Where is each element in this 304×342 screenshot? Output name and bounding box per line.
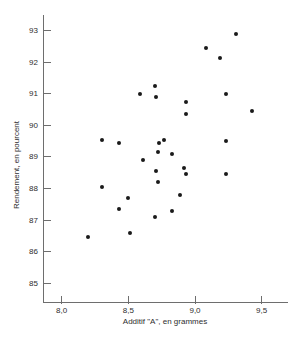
x-tick	[61, 296, 62, 304]
data-point	[224, 92, 228, 96]
x-tick	[195, 296, 196, 304]
x-tick-label: 9,0	[184, 306, 206, 315]
data-point	[170, 209, 174, 213]
y-axis-label: Rendement, en pourcent	[12, 110, 22, 220]
data-point	[153, 215, 157, 219]
y-tick-label: 93	[22, 26, 38, 35]
data-point	[218, 56, 222, 60]
data-point	[128, 231, 132, 235]
data-point	[170, 152, 174, 156]
data-point	[184, 172, 188, 176]
data-point	[117, 207, 121, 211]
y-tick-label: 91	[22, 89, 38, 98]
x-tick-label: 8,0	[51, 306, 73, 315]
x-axis	[43, 302, 288, 303]
x-tick-label: 9,5	[251, 306, 273, 315]
y-axis	[43, 15, 44, 303]
y-tick	[43, 62, 51, 63]
y-tick	[43, 30, 51, 31]
x-tick	[128, 296, 129, 304]
y-tick	[43, 156, 51, 157]
data-point	[184, 100, 188, 104]
data-point	[182, 166, 186, 170]
y-tick-label: 92	[22, 58, 38, 67]
data-point	[117, 141, 121, 145]
y-tick	[43, 188, 51, 189]
data-point	[141, 158, 145, 162]
data-point	[100, 138, 104, 142]
data-point	[86, 235, 90, 239]
data-point	[234, 32, 238, 36]
data-point	[154, 169, 158, 173]
y-tick	[43, 93, 51, 94]
data-point	[162, 138, 166, 142]
data-point	[126, 196, 130, 200]
y-tick-label: 85	[22, 279, 38, 288]
y-tick-label: 90	[22, 121, 38, 130]
data-point	[204, 46, 208, 50]
data-point	[224, 139, 228, 143]
data-point	[156, 150, 160, 154]
data-point	[250, 109, 254, 113]
x-tick-label: 8,5	[117, 306, 139, 315]
y-tick	[43, 125, 51, 126]
y-tick-label: 88	[22, 184, 38, 193]
x-tick	[261, 296, 262, 304]
y-tick	[43, 283, 51, 284]
data-point	[156, 180, 160, 184]
y-tick	[43, 220, 51, 221]
data-point	[154, 95, 158, 99]
x-axis-label: Additif "A", en grammes	[85, 317, 245, 327]
y-tick-label: 89	[22, 152, 38, 161]
y-tick-label: 86	[22, 247, 38, 256]
y-tick	[43, 251, 51, 252]
y-tick-label: 87	[22, 216, 38, 225]
data-point	[100, 185, 104, 189]
data-point	[138, 92, 142, 96]
data-point	[153, 84, 157, 88]
data-point	[157, 141, 161, 145]
data-point	[178, 193, 182, 197]
data-point	[184, 112, 188, 116]
scatter-plot: Rendement, en pourcent Additif "A", en g…	[0, 0, 304, 342]
data-point	[224, 172, 228, 176]
